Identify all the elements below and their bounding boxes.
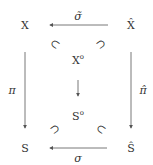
label-sigma-tilde: σ̃ [74, 11, 82, 22]
label-pi: π [8, 85, 15, 96]
label-sigma: σ [74, 153, 82, 164]
node-x: X [21, 20, 29, 31]
node-s-open: So [72, 110, 84, 122]
node-x-open: Xo [72, 54, 84, 66]
node-x-hat: X̂ [127, 20, 135, 31]
label-pi-hat: π̂ [139, 85, 146, 96]
node-s-hat: Ŝ [127, 143, 135, 154]
node-s: S [21, 143, 29, 154]
